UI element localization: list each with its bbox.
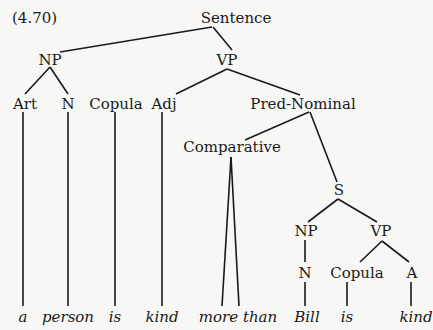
node-np-embedded: NP [294, 222, 317, 240]
node-a: A [407, 264, 418, 282]
node-copula-embedded: Copula [330, 264, 384, 282]
node-art: Art [13, 95, 37, 113]
node-pred-nominal: Pred-Nominal [250, 95, 355, 113]
node-n: N [61, 95, 74, 113]
node-vp: VP [217, 51, 238, 69]
node-n-embedded: N [298, 264, 311, 282]
node-copula: Copula [89, 95, 143, 113]
leaf-person: person [42, 308, 94, 326]
leaf-more-than: more than [199, 308, 277, 326]
node-vp-embedded: VP [371, 222, 392, 240]
leaf-is: is [109, 308, 122, 326]
node-adj: Adj [151, 95, 176, 113]
node-comparative: Comparative [183, 138, 281, 156]
leaf-is-embedded: is [341, 308, 354, 326]
node-sentence: Sentence [201, 9, 272, 27]
leaf-bill: Bill [294, 308, 319, 326]
leaf-kind: kind [145, 308, 178, 326]
node-np: NP [38, 51, 61, 69]
example-number: (4.70) [12, 9, 57, 27]
node-s: S [334, 181, 344, 199]
leaf-kind-embedded: kind [399, 308, 432, 326]
leaf-a: a [19, 308, 28, 326]
